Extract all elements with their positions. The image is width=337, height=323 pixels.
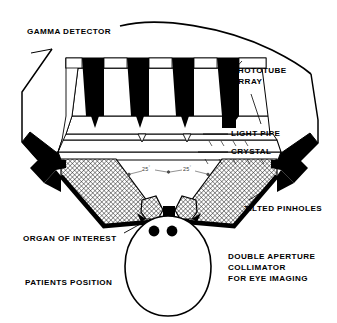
label-collimator-line2: COLLIMATOR [228, 263, 286, 273]
label-collimator-line3: FOR EYE IMAGING [228, 274, 308, 284]
degree-sign-right: ° [189, 165, 191, 169]
degree-sign-left: ° [148, 165, 150, 169]
eye-left [149, 226, 160, 237]
label-gamma-detector: GAMMA DETECTOR [27, 27, 111, 37]
angle-line-left [130, 171, 142, 174]
patient-head [125, 216, 211, 316]
angle-label-right: 25° [183, 165, 191, 172]
gamma-camera-diagram: GAMMA DETECTOR PHOTOTUBE ARRAY LIGHT PIP… [0, 0, 337, 323]
label-phototube-array-line2: ARRAY [232, 77, 262, 87]
label-crystal: CRYSTAL [231, 147, 271, 157]
angle-line-right-in [170, 170, 182, 172]
collimator-left-arm [30, 159, 156, 226]
angle-dot [128, 173, 130, 175]
angle-line-right [195, 171, 207, 174]
angle-label-left: 25° [142, 165, 150, 172]
pinhole-tip-right [175, 196, 197, 219]
label-organ-of-interest: ORGAN OF INTEREST [23, 234, 117, 244]
tube-gap [66, 58, 82, 68]
label-light-pipe: LIGHT PIPE [231, 129, 280, 139]
label-phototube-array-line1: PHOTOTUBE [232, 66, 287, 76]
eye-right [167, 226, 178, 237]
angle-dot [167, 171, 169, 173]
collimator-right-arm [182, 159, 308, 226]
aperture-gap [163, 206, 175, 216]
label-tilted-pinholes: TILTED PINHOLES [244, 204, 322, 214]
tube-gap [104, 58, 127, 68]
tube-gap [194, 58, 217, 68]
label-collimator-line1: DOUBLE APERTURE [228, 252, 315, 262]
pinhole-tip-left [141, 196, 163, 219]
tube-gap [149, 58, 172, 68]
angle-line-left-in [155, 170, 167, 172]
label-patients-position: PATIENTS POSITION [25, 278, 112, 288]
angle-dimension-markers [128, 170, 209, 176]
angle-dot [207, 173, 209, 175]
